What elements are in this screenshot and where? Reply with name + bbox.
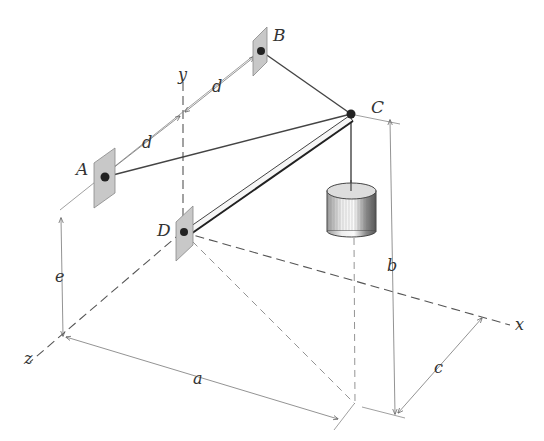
weight-cylinder — [327, 180, 376, 237]
guide-d-to-floor — [184, 233, 355, 404]
z-axis — [30, 232, 182, 362]
z-axis-label: z — [23, 349, 33, 368]
cable-bc — [261, 51, 351, 114]
cables — [105, 51, 351, 190]
extension-ab — [60, 52, 258, 210]
dim-label-b: b — [387, 256, 397, 275]
x-axis-label: x — [515, 315, 524, 334]
dim-label-d-lower: d — [142, 133, 152, 152]
statics-diagram: y z x d d e a b c — [0, 0, 544, 441]
guide-weight-to-floor — [354, 238, 355, 404]
y-axis-label: y — [177, 65, 188, 84]
joint-c — [347, 110, 356, 119]
label-c: C — [371, 97, 384, 117]
label-b: B — [272, 25, 286, 45]
dim-label-d-upper: d — [212, 77, 222, 96]
dim-label-e: e — [55, 267, 64, 286]
anchor-plate-a — [94, 148, 115, 208]
label-d: D — [156, 220, 171, 240]
x-axis — [182, 232, 510, 325]
dim-label-c: c — [434, 358, 443, 377]
extension-a-end — [334, 404, 354, 430]
dim-label-a: a — [193, 369, 203, 388]
dimension-lines: d d e a b c — [55, 52, 482, 430]
anchor-plate-b — [253, 27, 267, 76]
anchor-plate-d — [176, 206, 193, 261]
label-a: A — [74, 159, 88, 179]
projection-guides — [184, 233, 355, 404]
